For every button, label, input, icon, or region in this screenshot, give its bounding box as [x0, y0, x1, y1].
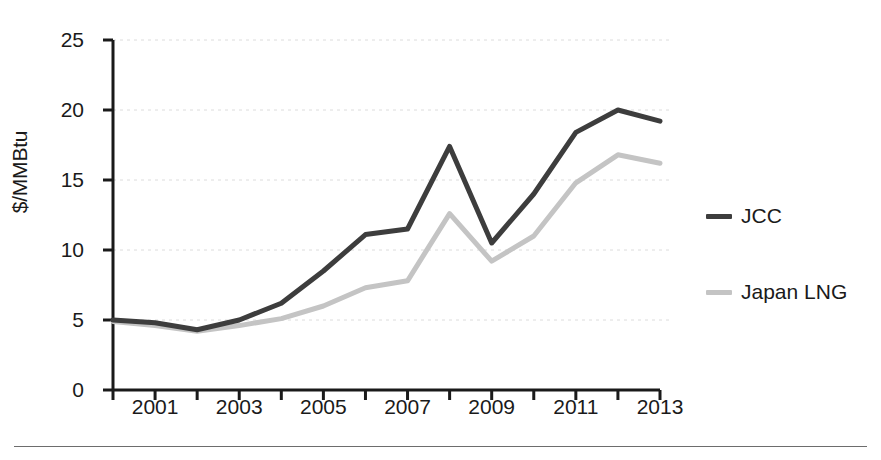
series-line-jcc: [113, 110, 660, 330]
series-lines: [113, 110, 660, 331]
legend-item-japan-lng: Japan LNG: [706, 281, 847, 303]
x-tick-label: 2007: [373, 396, 443, 417]
line-chart: [0, 0, 881, 460]
series-line-japan-lng: [113, 155, 660, 331]
x-tick-label: 2011: [541, 396, 611, 417]
legend-label-jcc: JCC: [741, 205, 782, 227]
legend-item-jcc: JCC: [706, 205, 782, 227]
legend-swatch-japan-lng: [706, 290, 732, 295]
x-tick-label: 2013: [625, 396, 695, 417]
x-tick-label: 2009: [457, 396, 527, 417]
axis-lines: [113, 40, 660, 390]
y-tick-label: 5: [40, 309, 84, 330]
y-tick-label: 15: [40, 169, 84, 190]
x-tick-label: 2005: [288, 396, 358, 417]
y-axis-title: $/MMBtu: [8, 112, 32, 232]
legend-swatch-jcc: [706, 214, 732, 219]
y-tick-label: 20: [40, 99, 84, 120]
y-tick-label: 10: [40, 239, 84, 260]
figure-container: $/MMBtu 0510152025 200120032005200720092…: [0, 0, 881, 460]
y-tick-label: 25: [40, 29, 84, 50]
y-tick-label: 0: [40, 379, 84, 400]
x-tick-label: 2003: [204, 396, 274, 417]
gridlines: [113, 40, 669, 320]
legend-label-japan-lng: Japan LNG: [741, 281, 847, 303]
footer-divider: [14, 446, 867, 447]
x-tick-label: 2001: [120, 396, 190, 417]
